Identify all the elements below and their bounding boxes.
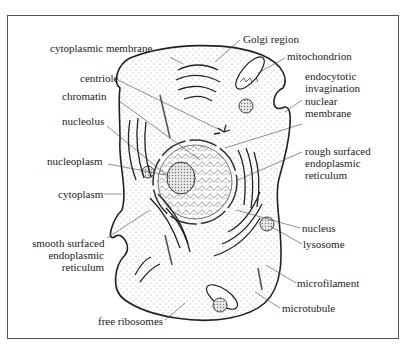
label-lysosome: lysosome: [303, 238, 345, 250]
label-nucleus: nucleus: [302, 222, 336, 234]
label-endocytotic-invagination: endocytoticinvagination: [305, 70, 360, 94]
nucleolus: [167, 162, 195, 194]
label-centriole: centriole: [80, 72, 118, 84]
label-microtubule: microtubule: [282, 302, 335, 314]
label-smooth-er: smooth surfacedendoplasmicreticulum: [32, 237, 104, 273]
label-golgi-region: Golgi region: [243, 33, 299, 45]
label-nuclear-membrane: nuclearmembrane: [305, 95, 351, 119]
label-nucleoplasm: nucleoplasm: [47, 155, 103, 167]
lysosome: [260, 217, 274, 231]
label-microfilament: microfilament: [297, 277, 359, 289]
label-free-ribosomes: free ribosomes: [98, 315, 163, 327]
label-chromatin: chromatin: [62, 90, 107, 102]
label-nucleolus: nucleolus: [62, 115, 104, 127]
label-cytoplasmic-membrane: cytoplasmic membrane: [50, 42, 152, 54]
label-mitochondrion: mitochondrion: [287, 50, 352, 62]
label-rough-er: rough surfacedendoplasmicreticulum: [305, 145, 371, 181]
label-cytoplasm: cytoplasm: [58, 188, 103, 200]
